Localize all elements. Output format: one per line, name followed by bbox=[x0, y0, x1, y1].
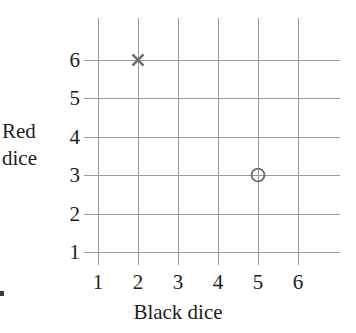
cross-marker bbox=[130, 52, 146, 68]
y-tick-label-5: 5 bbox=[70, 88, 81, 109]
y-tick-label-2: 2 bbox=[70, 204, 81, 225]
x-tick-label-3: 3 bbox=[173, 272, 184, 293]
x-tick-label-6: 6 bbox=[293, 272, 304, 293]
gridline-horizontal-6 bbox=[84, 60, 340, 61]
chart-figure: 6 5 4 3 2 1 1 2 3 4 5 6 Red dice Black d… bbox=[0, 0, 356, 333]
gridline-horizontal-1 bbox=[84, 252, 340, 253]
y-tick-label-6: 6 bbox=[70, 50, 81, 71]
gridline-horizontal-3 bbox=[84, 175, 340, 176]
gridline-vertical-5 bbox=[258, 18, 259, 265]
x-tick-label-5: 5 bbox=[253, 272, 264, 293]
y-tick-label-4: 4 bbox=[70, 127, 81, 148]
gridline-horizontal-2 bbox=[84, 214, 340, 215]
gridline-vertical-1 bbox=[98, 18, 99, 265]
gridline-horizontal-4 bbox=[84, 137, 340, 138]
gridline-vertical-4 bbox=[218, 18, 219, 265]
y-tick-label-1: 1 bbox=[70, 242, 81, 263]
x-tick-label-4: 4 bbox=[213, 272, 224, 293]
gridline-vertical-6 bbox=[298, 18, 299, 265]
x-axis-title: Black dice bbox=[0, 302, 356, 323]
gridline-horizontal-5 bbox=[84, 98, 340, 99]
y-axis-title-line-1: Red bbox=[2, 118, 68, 145]
x-tick-label-2: 2 bbox=[133, 272, 144, 293]
x-tick-label-1: 1 bbox=[93, 272, 104, 293]
y-axis-title-line-2: dice bbox=[2, 145, 68, 172]
y-axis-title: Red dice bbox=[2, 118, 68, 172]
y-tick-label-3: 3 bbox=[70, 165, 81, 186]
circle-marker bbox=[249, 166, 267, 184]
gridline-vertical-3 bbox=[178, 18, 179, 265]
page-edge-artifact bbox=[0, 291, 4, 296]
